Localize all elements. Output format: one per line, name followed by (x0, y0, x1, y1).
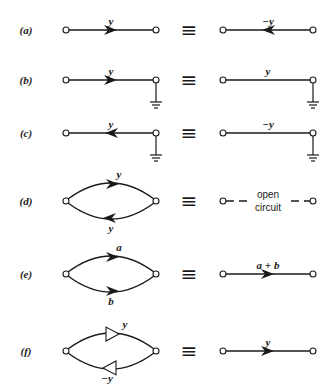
signal-flow-equivalences-figure: (a)y≡−y(b)y≡y(c)y≡−y(d)yy≡opencircuit(e)… (0, 0, 336, 390)
node (310, 27, 316, 33)
open-circuit-label-top: open (257, 189, 279, 200)
equivalent-graph: y (220, 336, 316, 356)
branch-gain-label: y (264, 65, 271, 77)
equivalent-graph: −y (220, 15, 316, 35)
node (63, 27, 69, 33)
lower-branch-label: −y (101, 372, 113, 384)
original-graph: y−y (63, 318, 159, 384)
node (63, 348, 69, 354)
arrowhead-icon (106, 179, 119, 189)
row-label: (f) (21, 345, 32, 358)
equivalence-row-d: (d)yy≡opencircuit (20, 168, 316, 234)
node (63, 77, 69, 83)
row-label: (e) (20, 268, 32, 281)
equivalent-graph: opencircuit (220, 189, 316, 213)
equivalence-row-c: (c)y≡−y (20, 118, 319, 161)
node (153, 348, 159, 354)
equivalence-symbol: ≡ (181, 262, 198, 286)
node (310, 77, 316, 83)
row-label: (d) (20, 195, 33, 208)
branch-gain-label: a + b (257, 259, 280, 271)
upper-branch-label: a (116, 241, 122, 253)
equivalence-symbol: ≡ (181, 121, 198, 145)
upper-branch-label: y (121, 318, 128, 330)
node (63, 130, 69, 136)
branch-gain-label: −y (262, 15, 274, 27)
node (63, 198, 69, 204)
node (220, 198, 226, 204)
row-label: (b) (20, 74, 33, 87)
equivalence-symbol: ≡ (181, 68, 198, 92)
node (220, 27, 226, 33)
original-graph: ab (63, 241, 159, 307)
upper-branch-label: y (115, 168, 122, 180)
equivalent-graph: a + b (220, 259, 316, 279)
branch-gain-label: y (107, 15, 114, 27)
node (220, 130, 226, 136)
node (310, 271, 316, 277)
row-label: (a) (20, 24, 33, 37)
open-circuit-label-bottom: circuit (255, 202, 281, 213)
original-graph: y (63, 65, 162, 108)
branch-gain-label: y (107, 65, 114, 77)
ground-icon (150, 136, 162, 161)
node (153, 27, 159, 33)
node (153, 130, 159, 136)
equivalence-row-b: (b)y≡y (20, 65, 319, 108)
equivalence-row-e: (e)ab≡a + b (20, 241, 316, 307)
arrowhead-icon (106, 252, 119, 262)
branch-gain-label: −y (262, 118, 274, 130)
branch-gain-label: y (264, 336, 271, 348)
equivalence-symbol: ≡ (181, 189, 198, 213)
ground-icon (307, 136, 319, 161)
equivalence-symbol: ≡ (181, 339, 198, 363)
node (220, 271, 226, 277)
lower-branch-label: y (107, 222, 114, 234)
original-graph: y (63, 15, 159, 35)
equivalence-row-a: (a)y≡−y (20, 15, 316, 42)
node (153, 198, 159, 204)
node (63, 271, 69, 277)
equivalent-graph: y (220, 65, 319, 108)
ground-icon (150, 83, 162, 108)
row-label: (c) (20, 127, 32, 140)
node (310, 198, 316, 204)
ground-icon (307, 83, 319, 108)
node (153, 271, 159, 277)
equivalence-symbol: ≡ (181, 18, 198, 42)
equivalence-row-f: (f)y−y≡y (21, 318, 317, 384)
lower-branch-label: b (108, 295, 114, 307)
equivalent-graph: −y (220, 118, 319, 161)
node (310, 130, 316, 136)
original-graph: y (63, 118, 162, 161)
node (220, 77, 226, 83)
node (310, 348, 316, 354)
node (153, 77, 159, 83)
hollow-arrowhead-icon (106, 327, 119, 341)
original-graph: yy (63, 168, 159, 234)
branch-gain-label: y (107, 118, 114, 130)
node (220, 348, 226, 354)
